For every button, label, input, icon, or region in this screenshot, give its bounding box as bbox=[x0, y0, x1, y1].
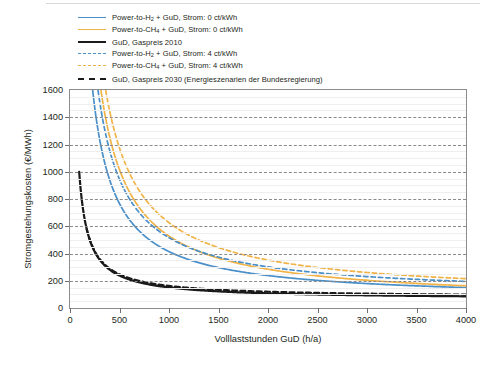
legend-item-label: Power-to-H2 + GuD, Strom: 0 ct/kWh bbox=[112, 13, 237, 24]
legend-item[interactable]: Power-to-CH4 + GuD, Strom: 4 ct/kWh bbox=[78, 61, 478, 73]
x-tick-mark bbox=[466, 308, 467, 313]
chart-legend: Power-to-H2 + GuD, Strom: 0 ct/kWhPower-… bbox=[78, 12, 478, 85]
y-axis-title: Stromgestehungskosten (€/MWh) bbox=[22, 129, 33, 269]
x-tick-label: 4000 bbox=[456, 315, 476, 325]
x-tick-label: 500 bbox=[112, 315, 127, 325]
gridline-minor bbox=[70, 247, 466, 248]
legend-item[interactable]: GuD, Gaspreis 2030 (Energieszenarien der… bbox=[78, 73, 478, 85]
gridline-minor bbox=[70, 158, 466, 159]
y-tick-mark bbox=[65, 281, 69, 282]
gridline-minor bbox=[70, 151, 466, 152]
legend-item[interactable]: Power-to-H2 + GuD, Strom: 0 ct/kWh bbox=[78, 12, 478, 24]
gridline-minor bbox=[70, 267, 466, 268]
y-tick-mark bbox=[65, 172, 69, 173]
legend-item[interactable]: Power-to-CH4 + GuD, Strom: 0 ct/kWh bbox=[78, 24, 478, 36]
gridline-minor bbox=[70, 110, 466, 111]
legend-item-label: Power-to-H2 + GuD, Strom: 4 ct/kWh bbox=[112, 49, 237, 60]
gridline-minor bbox=[70, 260, 466, 261]
y-tick-label: 800 bbox=[48, 194, 63, 204]
series-line bbox=[79, 172, 466, 297]
x-tick-label: 1500 bbox=[208, 315, 228, 325]
legend-item-label: Power-to-CH4 + GuD, Strom: 4 ct/kWh bbox=[112, 61, 243, 72]
x-tick-mark bbox=[120, 308, 121, 313]
gridline-minor bbox=[70, 104, 466, 105]
x-tick-mark bbox=[268, 308, 269, 313]
legend-item-label: Power-to-CH4 + GuD, Strom: 0 ct/kWh bbox=[112, 25, 243, 36]
x-tick-label: 2500 bbox=[307, 315, 327, 325]
gridline-major bbox=[70, 145, 466, 146]
x-tick-mark bbox=[169, 308, 170, 313]
gridline-major bbox=[70, 117, 466, 118]
x-tick-label: 3000 bbox=[357, 315, 377, 325]
gridline-minor bbox=[70, 124, 466, 125]
legend-item[interactable]: GuD, Gaspreis 2010 bbox=[78, 36, 478, 48]
plot-inner bbox=[70, 90, 466, 308]
gridline-minor bbox=[70, 131, 466, 132]
x-tick-label: 1000 bbox=[159, 315, 179, 325]
y-tick-label: 600 bbox=[48, 221, 63, 231]
y-tick-label: 1000 bbox=[43, 167, 63, 177]
y-tick-label: 400 bbox=[48, 249, 63, 259]
x-tick-label: 2000 bbox=[258, 315, 278, 325]
y-tick-label: 1200 bbox=[43, 140, 63, 150]
x-tick-mark bbox=[219, 308, 220, 313]
x-tick-label: 0 bbox=[67, 315, 72, 325]
gridline-minor bbox=[70, 274, 466, 275]
x-tick-label: 3500 bbox=[406, 315, 426, 325]
gridline-minor bbox=[70, 213, 466, 214]
y-tick-mark bbox=[65, 254, 69, 255]
gridline-minor bbox=[70, 185, 466, 186]
x-tick-mark bbox=[318, 308, 319, 313]
y-tick-mark bbox=[65, 199, 69, 200]
top-divider-rule bbox=[46, 3, 480, 4]
x-axis-title: Volllaststunden GuD (h/a) bbox=[215, 333, 322, 344]
gridline-minor bbox=[70, 97, 466, 98]
gridline-minor bbox=[70, 294, 466, 295]
series-line bbox=[101, 90, 466, 286]
series-line bbox=[93, 90, 466, 288]
gridline-major bbox=[70, 254, 466, 255]
y-tick-label: 1600 bbox=[43, 85, 63, 95]
y-tick-mark bbox=[65, 145, 69, 146]
y-tick-label: 200 bbox=[48, 276, 63, 286]
y-tick-mark bbox=[65, 226, 69, 227]
gridline-minor bbox=[70, 301, 466, 302]
y-tick-mark bbox=[65, 117, 69, 118]
gridline-minor bbox=[70, 288, 466, 289]
gridline-major bbox=[70, 281, 466, 282]
x-tick-mark bbox=[367, 308, 368, 313]
legend-item-label: GuD, Gaspreis 2010 bbox=[112, 38, 182, 47]
gridline-minor bbox=[70, 206, 466, 207]
plot-area bbox=[69, 89, 467, 309]
legend-item[interactable]: Power-to-H2 + GuD, Strom: 4 ct/kWh bbox=[78, 49, 478, 61]
legend-item-label: GuD, Gaspreis 2030 (Energieszenarien der… bbox=[112, 75, 323, 84]
series-line bbox=[106, 90, 466, 279]
gridline-major bbox=[70, 226, 466, 227]
gridline-minor bbox=[70, 165, 466, 166]
gridline-minor bbox=[70, 179, 466, 180]
chart-figure: Power-to-H2 + GuD, Strom: 0 ct/kWhPower-… bbox=[0, 0, 495, 366]
x-tick-mark bbox=[417, 308, 418, 313]
x-tick-mark bbox=[70, 308, 71, 313]
gridline-minor bbox=[70, 138, 466, 139]
y-tick-label: 0 bbox=[58, 303, 63, 313]
gridline-major bbox=[70, 199, 466, 200]
gridline-minor bbox=[70, 219, 466, 220]
gridline-minor bbox=[70, 233, 466, 234]
y-tick-label: 1400 bbox=[43, 112, 63, 122]
gridline-minor bbox=[70, 240, 466, 241]
gridline-minor bbox=[70, 192, 466, 193]
gridline-major bbox=[70, 172, 466, 173]
